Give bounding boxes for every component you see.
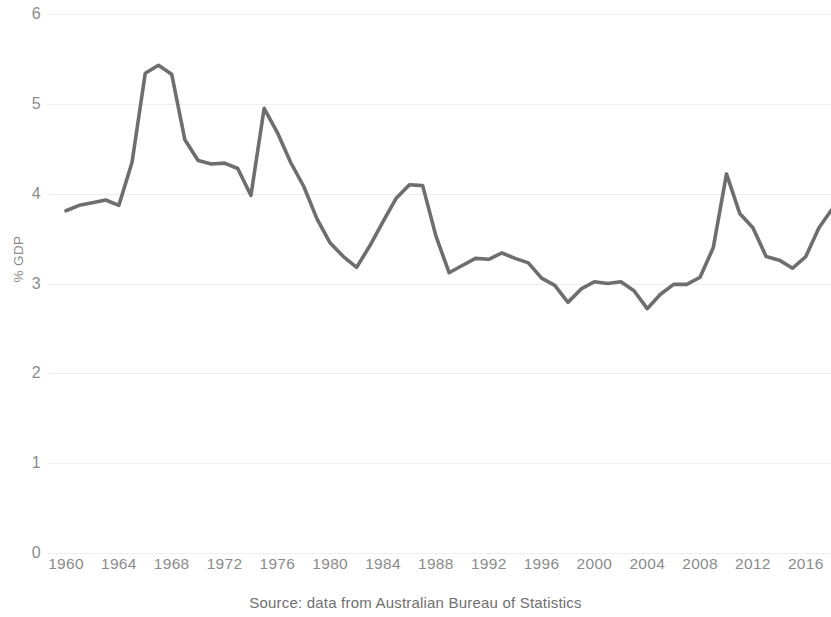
x-tick-label-1972: 1972	[195, 556, 255, 572]
gridline-y-5	[47, 104, 831, 105]
y-tick-label-1: 1	[7, 455, 41, 471]
x-tick-label-2016: 2016	[776, 556, 831, 572]
gridline-y-6	[47, 14, 831, 15]
series-line-chart	[0, 0, 831, 575]
y-axis-label: % GDP	[12, 224, 26, 294]
x-tick-label-2000: 2000	[564, 556, 624, 572]
y-tick-label-2: 2	[7, 365, 41, 381]
gridline-y-4	[47, 194, 831, 195]
gridline-y-1	[47, 463, 831, 464]
x-tick-label-2008: 2008	[670, 556, 730, 572]
x-tick-label-1988: 1988	[406, 556, 466, 572]
x-tick-label-1964: 1964	[89, 556, 149, 572]
chart-caption: Source: data from Australian Bureau of S…	[0, 594, 831, 612]
x-tick-label-2012: 2012	[723, 556, 783, 572]
gridline-y-0	[47, 553, 831, 554]
y-tick-label-4: 4	[7, 186, 41, 202]
x-tick-label-1984: 1984	[353, 556, 413, 572]
y-tick-label-5: 5	[7, 96, 41, 112]
x-tick-label-1960: 1960	[36, 556, 96, 572]
x-tick-label-1992: 1992	[459, 556, 519, 572]
x-tick-label-1996: 1996	[512, 556, 572, 572]
x-tick-label-1968: 1968	[142, 556, 202, 572]
gridline-y-2	[47, 373, 831, 374]
y-tick-label-6: 6	[7, 6, 41, 22]
gridline-y-3	[47, 284, 831, 285]
x-tick-label-1976: 1976	[247, 556, 307, 572]
chart-figure: 0123456 19601964196819721976198019841988…	[0, 0, 831, 617]
x-tick-label-2004: 2004	[617, 556, 677, 572]
series-line-defence-spending	[66, 65, 831, 308]
plot-area: 0123456 19601964196819721976198019841988…	[0, 0, 831, 575]
x-tick-label-1980: 1980	[300, 556, 360, 572]
